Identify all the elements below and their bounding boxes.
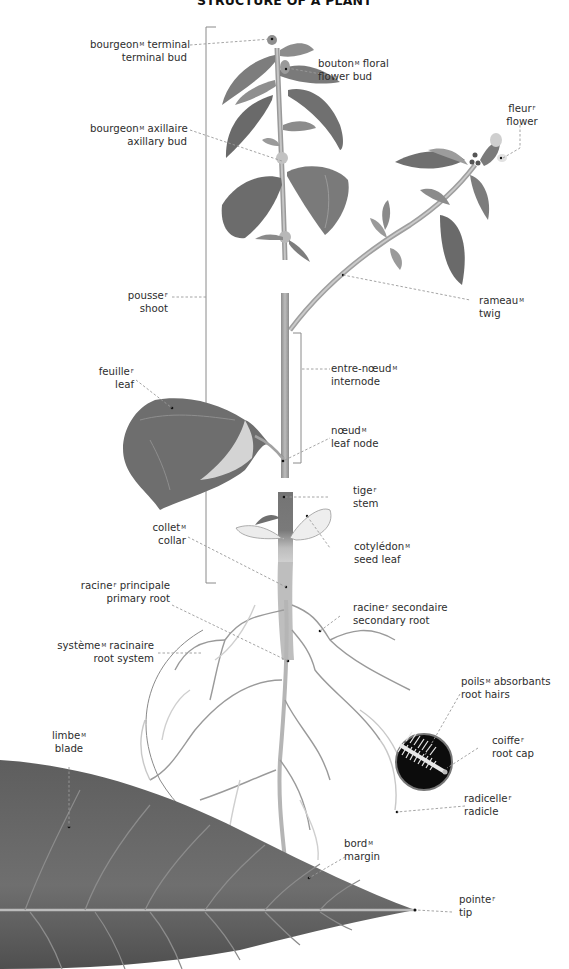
label-leaf: feuilleF leaf <box>92 366 134 391</box>
label-radicle: radicelleF radicle <box>464 793 512 818</box>
plant-illustration <box>0 0 569 969</box>
label-blade: limbeM blade <box>46 730 92 755</box>
label-secondary-root: racineF secondaire secondary root <box>353 602 448 627</box>
label-stem: tigeF stem <box>353 485 379 510</box>
label-internode: entre-nœudM internode <box>331 363 397 388</box>
label-root-system: systèmeM racinaire root system <box>30 640 154 665</box>
leaf-blade <box>0 760 417 969</box>
label-flower: fleurF flower <box>502 103 542 128</box>
label-root-cap: coiffeF root cap <box>492 735 534 760</box>
label-margin: bordM margin <box>344 838 380 863</box>
label-twig: rameauM twig <box>479 295 524 320</box>
label-root-hairs: poilsM absorbants root hairs <box>461 676 551 701</box>
label-collar: colletM collar <box>140 522 186 547</box>
label-terminal-bud: bourgeonM terminal terminal bud <box>90 39 187 64</box>
label-primary-root: racineF principale primary root <box>70 580 170 605</box>
label-leaf-node: nœudM leaf node <box>331 425 379 450</box>
label-axillary-bud: bourgeonM axillaire axillary bud <box>90 123 187 148</box>
label-tip: pointeF tip <box>459 894 495 919</box>
label-shoot: pousseF shoot <box>120 290 168 315</box>
internode-bracket <box>293 333 301 463</box>
label-seed-leaf: cotylédonM seed leaf <box>354 541 410 566</box>
root-cap-magnifier <box>396 732 452 790</box>
label-flower-bud: boutonM floral flower bud <box>318 58 389 83</box>
lower-stem <box>236 492 331 660</box>
shoot-bracket <box>206 27 216 583</box>
